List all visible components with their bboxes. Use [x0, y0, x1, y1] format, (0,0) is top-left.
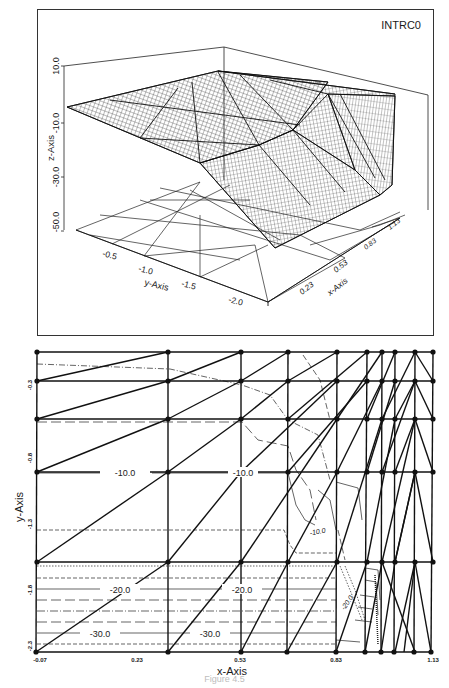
- x-tick-053: 0.53: [234, 657, 246, 663]
- figure: INTRC0 10.0 -10.0 -30.0 -50.0 z-Axis: [0, 0, 449, 688]
- x-axis-3d-label: x-Axis: [324, 275, 350, 298]
- y-axis: -0.3 -0.8 -1.3 -1.8 -2.3 y-Axis: [13, 379, 33, 651]
- contour-label-m30-mid: -30.0: [200, 629, 221, 639]
- x-tick-083: 0.83: [330, 657, 342, 663]
- y-tick-18: -1.8: [27, 584, 33, 595]
- surface-plot-title: INTRC0: [381, 19, 421, 31]
- contour-label-m10-right: -10.0: [309, 527, 326, 537]
- y-tick-20: -2.0: [228, 294, 245, 307]
- y-tick-23: -2.3: [27, 640, 33, 651]
- mesh-grid: [36, 352, 433, 652]
- z-tick-10: 10.0: [51, 57, 61, 75]
- y-axis-3d-label: y-Axis: [144, 277, 171, 293]
- x-tick-083: 0.83: [362, 237, 377, 251]
- surface-wireframe: [67, 71, 395, 248]
- z-axis: 10.0 -10.0 -30.0 -50.0 z-Axis: [45, 57, 64, 232]
- y-tick-08: -0.8: [27, 452, 33, 463]
- z-axis-label: z-Axis: [45, 135, 56, 161]
- z-tick-m30: -30.0: [51, 167, 61, 188]
- y-tick-10: -1.0: [138, 263, 155, 276]
- x-tick-113: 1.13: [427, 657, 439, 663]
- y-tick-03: -0.3: [27, 379, 33, 390]
- surface-plot: INTRC0 10.0 -10.0 -30.0 -50.0 z-Axis: [38, 10, 434, 336]
- y-tick-15: -1.5: [181, 278, 198, 291]
- x-tick-m007: -0.07: [33, 657, 47, 663]
- contour-plot: -10.0 -10.0 -10.0 -20.0 -20.0 -20.0 -30.…: [13, 349, 439, 677]
- contour-label-m20-right: -20.0: [340, 594, 355, 611]
- figure-caption: Figure 4.5: [0, 674, 449, 684]
- y-axis-label: y-Axis: [13, 492, 25, 522]
- contour-label-m10-left: -10.0: [115, 468, 136, 478]
- x-tick-023: 0.23: [131, 657, 143, 663]
- y-tick-05: -0.5: [102, 248, 119, 261]
- y-tick-13: -1.3: [27, 518, 33, 529]
- z-tick-m10: -10.0: [51, 113, 61, 134]
- contour-label-m10-mid: -10.0: [233, 468, 254, 478]
- x-tick-023: 0.23: [298, 280, 316, 297]
- contour-label-m20-mid: -20.0: [232, 585, 253, 595]
- contour-label-m20-left: -20.0: [110, 585, 131, 595]
- contour-label-m30-left: -30.0: [90, 629, 111, 639]
- z-tick-m50: -50.0: [51, 212, 61, 233]
